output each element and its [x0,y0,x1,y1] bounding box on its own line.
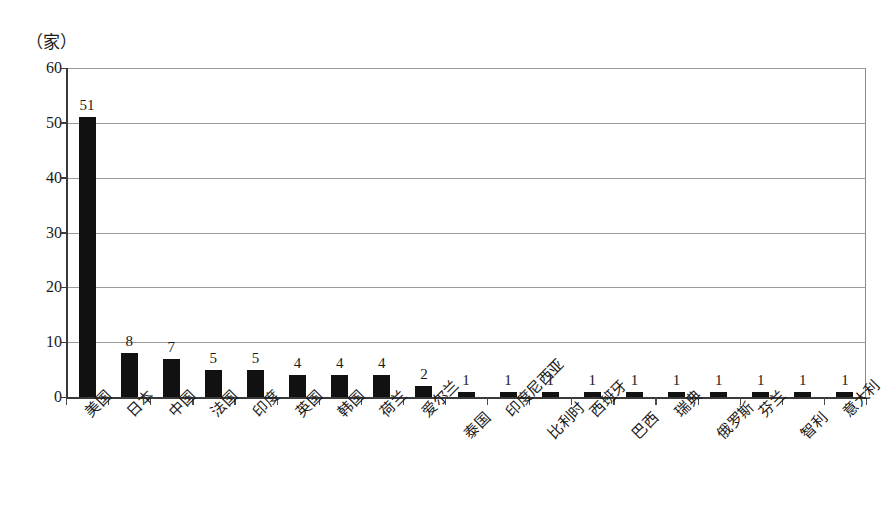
x-axis-category-label: 芬兰 [753,385,789,421]
x-axis-category-label: 瑞典 [669,385,705,421]
x-axis-category-label: 韩国 [332,385,368,421]
x-axis-category-label: 荷兰 [374,385,410,421]
x-axis-category-label: 美国 [79,385,115,421]
x-axis-category-label: 泰国 [458,407,494,443]
x-axis-category-label: 西班牙 [584,374,631,421]
x-axis-category-label: 印度 [247,385,283,421]
x-axis-category-label: 英国 [290,385,326,421]
x-axis-category-label: 俄罗斯 [711,396,758,443]
x-axis-category-label: 中国 [163,385,199,421]
x-axis-category-label: 智利 [795,407,831,443]
x-axis-category-label: 巴西 [626,407,662,443]
x-axis-category-label: 爱尔兰 [416,374,463,421]
x-axis-category-label: 法国 [205,385,241,421]
x-axis-category-label: 意大利 [837,374,884,421]
x-axis-category-labels: 美国日本中国法国印度英国韩国荷兰爱尔兰泰国印度尼西亚比利时西班牙巴西瑞典俄罗斯芬… [0,0,890,513]
x-axis-category-label: 比利时 [542,396,589,443]
x-axis-category-label: 日本 [121,385,157,421]
chart-page: （家） 0102030405060 51875544421111111111 美… [0,0,890,513]
